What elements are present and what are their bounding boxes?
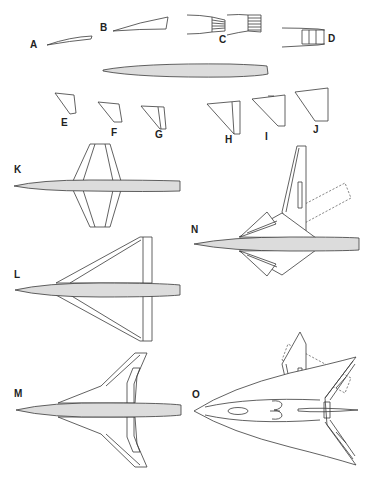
label-o: O <box>192 389 200 400</box>
label-h: H <box>225 134 232 145</box>
label-b: B <box>100 22 107 33</box>
part-j-wing-panel: J <box>295 88 328 135</box>
label-a: A <box>30 39 37 50</box>
aircraft-planform-diagram: A B C D E F G H <box>0 0 374 480</box>
planform-k: K <box>14 144 180 227</box>
label-m: M <box>14 388 22 399</box>
part-f-wing-panel: F <box>98 102 122 138</box>
label-f: F <box>111 127 117 138</box>
label-j: J <box>313 124 319 135</box>
label-i: I <box>265 131 268 142</box>
label-e: E <box>61 117 68 128</box>
part-e-wing-panel: E <box>55 93 76 128</box>
part-h-wing-panel: H <box>207 101 240 145</box>
part-g-wing-panel: G <box>141 106 166 140</box>
label-d: D <box>328 33 335 44</box>
planform-o: O <box>192 357 358 465</box>
part-a-nose-section: A <box>30 36 92 50</box>
part-b-nose-section: B <box>100 17 168 33</box>
fuselage-component <box>103 64 268 77</box>
label-l: L <box>14 269 20 280</box>
part-d-tail-nozzle: D <box>282 28 335 47</box>
label-g: G <box>155 129 163 140</box>
label-k: K <box>14 164 22 175</box>
label-n: N <box>191 224 198 235</box>
planform-m: M <box>14 353 181 467</box>
part-i-wing-panel: I <box>252 95 285 142</box>
planform-l: L <box>14 237 180 341</box>
part-c-tail-nozzle: C <box>187 15 261 46</box>
label-c: C <box>219 34 226 45</box>
